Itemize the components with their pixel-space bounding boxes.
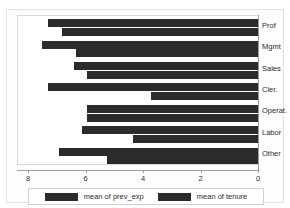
bar-group	[18, 145, 259, 166]
clipped-text-remnant	[0, 0, 290, 7]
x-axis-tick-label: 4	[133, 174, 153, 183]
bar-group	[18, 123, 259, 144]
category-label: Cler.	[262, 85, 277, 95]
bar-group	[18, 102, 259, 123]
bar	[87, 114, 260, 122]
category-label: Other	[262, 149, 281, 159]
bar	[151, 92, 259, 100]
bar-group	[18, 37, 259, 58]
bar-group	[18, 59, 259, 80]
bar	[82, 126, 259, 134]
bar	[42, 41, 259, 49]
y-axis-line	[258, 15, 259, 170]
x-axis-tick	[143, 170, 144, 173]
category-label: Mgmt	[262, 42, 281, 52]
chart-legend: mean of prev_expmean of tenure	[28, 188, 264, 205]
x-axis-tick-label: 0	[248, 174, 268, 183]
legend-label: mean of prev_exp	[84, 192, 144, 201]
legend-swatch	[45, 193, 78, 201]
chart-figure: ProfMgmtSalesCler.Operat.LaborOther mean…	[6, 9, 284, 203]
x-axis-tick	[86, 170, 87, 173]
category-label: Prof	[262, 21, 276, 31]
legend-item: mean of prev_exp	[45, 192, 144, 201]
category-label: Labor	[262, 128, 281, 138]
legend-swatch	[158, 193, 191, 201]
x-axis-tick-label: 8	[18, 174, 38, 183]
bar	[87, 71, 260, 79]
plot-area	[17, 15, 259, 165]
x-axis-tick	[28, 170, 29, 173]
bar	[59, 148, 259, 156]
bars-layer	[18, 16, 259, 164]
x-axis-tick	[201, 170, 202, 173]
bar	[48, 19, 259, 27]
bar	[74, 62, 259, 70]
bar	[87, 105, 260, 113]
category-axis-labels: ProfMgmtSalesCler.Operat.LaborOther	[262, 15, 290, 165]
bar	[62, 28, 259, 36]
category-label: Sales	[262, 64, 281, 74]
bar	[48, 83, 259, 91]
x-axis-line	[17, 170, 259, 171]
category-label: Operat.	[262, 106, 287, 116]
bar	[76, 49, 259, 57]
x-axis-tick-label: 6	[76, 174, 96, 183]
bar-group	[18, 80, 259, 101]
legend-item: mean of tenure	[158, 192, 247, 201]
bar	[107, 156, 259, 164]
bar-group	[18, 16, 259, 37]
x-axis-tick-label: 2	[191, 174, 211, 183]
legend-label: mean of tenure	[197, 192, 247, 201]
x-axis-tick	[258, 170, 259, 173]
bar	[133, 135, 260, 143]
